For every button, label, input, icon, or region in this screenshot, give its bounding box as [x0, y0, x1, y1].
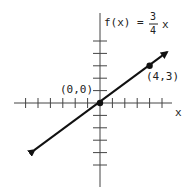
origin-label: (0,0): [60, 83, 93, 96]
function-label-var: x: [162, 18, 169, 31]
point-marker: [97, 100, 103, 106]
point-marker: [146, 63, 152, 69]
x-axis-label: x: [175, 106, 182, 119]
function-label-lhs: f(x) =: [104, 16, 144, 29]
function-label-numerator: 3: [150, 11, 156, 22]
point-4-3-label: (4,3): [146, 70, 179, 83]
function-graph: f(x) = 3 4 x x (0,0) (4,3): [0, 0, 194, 194]
function-label-denominator: 4: [150, 25, 156, 36]
